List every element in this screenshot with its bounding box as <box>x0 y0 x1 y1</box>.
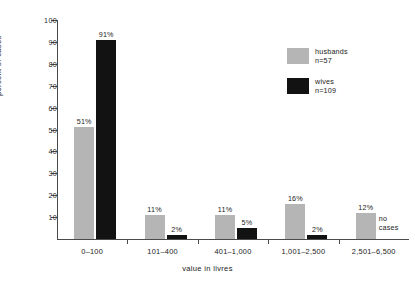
bar-wives-0 <box>96 40 116 239</box>
legend-swatch-wives <box>287 78 309 94</box>
y-tick-label: 20 <box>13 191 57 200</box>
bar-value-label: 5% <box>242 218 253 227</box>
y-tick-label: 40 <box>13 147 57 156</box>
x-tick <box>268 239 269 244</box>
no-cases-annotation: nocases <box>379 215 399 232</box>
bar-value-label: 11% <box>147 205 161 214</box>
legend-n-wives: n=109 <box>315 86 336 95</box>
bar-value-label: 2% <box>171 225 182 234</box>
y-axis-title: percent of cases <box>0 35 3 96</box>
y-tick-label: 60 <box>13 104 57 113</box>
y-tick-label: 50 <box>13 126 57 135</box>
bar-chart: 102030405060708090100 percent of cases v… <box>0 0 415 287</box>
x-tick <box>339 239 340 244</box>
bar-value-label: 12% <box>358 203 373 212</box>
x-axis-title: value in livres <box>0 264 415 273</box>
bar-husbands-1 <box>145 215 165 239</box>
bar-wives-2 <box>237 228 257 239</box>
x-category-label: 2,501–6,500 <box>352 247 396 256</box>
legend-name-wives: wives <box>315 77 334 86</box>
legend-label-husbands: husbandsn=57 <box>315 47 348 65</box>
legend-n-husbands: n=57 <box>315 56 332 65</box>
x-category-label: 401–1,000 <box>214 247 251 256</box>
bar-husbands-4 <box>356 213 376 239</box>
legend-swatch-husbands <box>287 48 309 64</box>
legend-name-husbands: husbands <box>315 47 348 56</box>
x-category-label: 0–100 <box>81 247 103 256</box>
bar-husbands-3 <box>285 204 305 239</box>
no-cases-line-2: cases <box>379 223 399 232</box>
bar-value-label: 91% <box>99 30 114 39</box>
bar-wives-3 <box>307 235 327 239</box>
y-tick-label: 10 <box>13 213 57 222</box>
bar-wives-1 <box>167 235 187 239</box>
y-tick-label: 80 <box>13 60 57 69</box>
x-tick <box>127 239 128 244</box>
y-tick-label: 100 <box>13 16 57 25</box>
bar-value-label: 2% <box>312 225 323 234</box>
bar-value-label: 51% <box>77 117 92 126</box>
x-category-label: 101–400 <box>147 247 178 256</box>
bar-husbands-0 <box>74 127 94 239</box>
y-tick-label: 30 <box>13 169 57 178</box>
y-tick-label: 90 <box>13 38 57 47</box>
x-category-label: 1,001–2,500 <box>281 247 325 256</box>
x-axis-line <box>57 239 409 240</box>
plot-area: 51%11%11%16%12%91%2%5%2%nocases <box>57 20 409 239</box>
legend-label-wives: wivesn=109 <box>315 77 336 95</box>
x-tick <box>198 239 199 244</box>
bar-husbands-2 <box>215 215 235 239</box>
y-tick-label: 70 <box>13 82 57 91</box>
bar-value-label: 11% <box>218 205 232 214</box>
bar-value-label: 16% <box>288 194 303 203</box>
